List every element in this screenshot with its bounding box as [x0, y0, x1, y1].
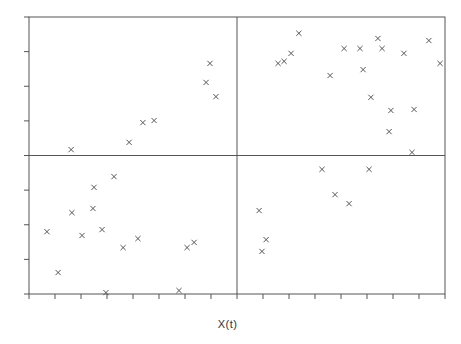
- x-marker: [127, 140, 132, 145]
- x-marker: [401, 51, 406, 56]
- x-marker: [288, 51, 293, 56]
- x-marker: [357, 46, 362, 51]
- x-marker: [176, 288, 181, 293]
- x-marker: [409, 150, 414, 155]
- x-marker: [79, 233, 84, 238]
- x-marker: [56, 270, 61, 275]
- x-marker: [90, 206, 95, 211]
- axis-ticks: [24, 17, 445, 299]
- x-marker: [91, 185, 96, 190]
- x-marker: [99, 227, 104, 232]
- x-marker: [332, 192, 337, 197]
- x-marker: [192, 240, 197, 245]
- x-marker: [342, 46, 347, 51]
- x-axis-label-text: X(t): [218, 318, 238, 330]
- x-axis-label: X(t): [0, 318, 461, 330]
- x-marker: [69, 147, 74, 152]
- x-marker: [411, 107, 416, 112]
- x-marker: [327, 73, 332, 78]
- x-marker: [259, 249, 264, 254]
- x-marker: [368, 95, 373, 100]
- x-marker: [257, 208, 262, 213]
- x-marker: [296, 31, 301, 36]
- x-marker: [69, 210, 74, 215]
- x-marker: [213, 94, 218, 99]
- x-marker: [388, 108, 393, 113]
- x-marker: [151, 118, 156, 123]
- x-marker: [275, 61, 280, 66]
- x-marker: [387, 129, 392, 134]
- x-marker: [121, 245, 126, 250]
- x-marker: [135, 236, 140, 241]
- x-marker: [140, 120, 145, 125]
- x-marker: [184, 245, 189, 250]
- x-marker: [281, 59, 286, 64]
- x-marker: [361, 67, 366, 72]
- x-marker: [319, 167, 324, 172]
- x-marker: [207, 61, 212, 66]
- x-marker: [111, 174, 116, 179]
- x-marker: [44, 229, 49, 234]
- x-marker: [437, 61, 442, 66]
- x-marker: [375, 36, 380, 41]
- x-marker: [379, 46, 384, 51]
- x-marker: [366, 167, 371, 172]
- x-marker: [203, 80, 208, 85]
- plot-frame: [29, 17, 445, 294]
- x-marker: [264, 237, 269, 242]
- x-marker: [426, 38, 431, 43]
- scatter-chart: [0, 0, 461, 344]
- x-marker: [346, 201, 351, 206]
- data-markers: [44, 31, 442, 296]
